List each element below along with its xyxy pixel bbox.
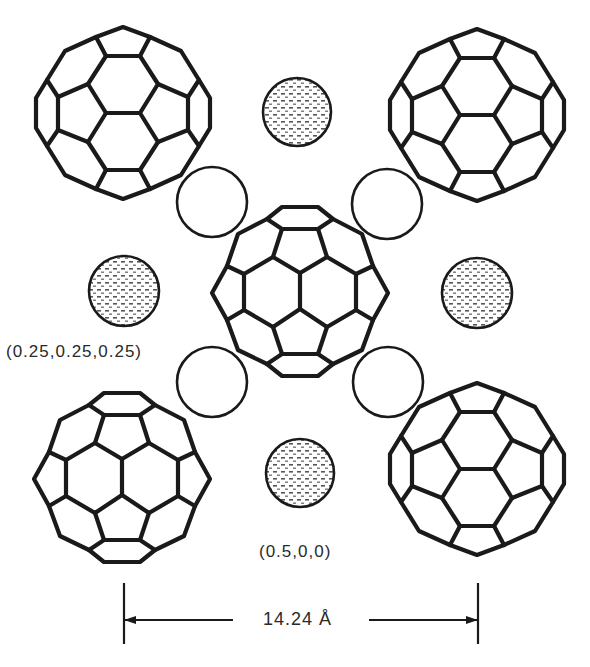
buckyball-top-left [36, 27, 210, 199]
tetrahedral-site-label: (0.25,0.25,0.25) [6, 342, 142, 362]
tetrahedral-site-ul [177, 167, 247, 237]
buckyball-top-right [390, 29, 564, 201]
tetrahedral-site-ur [352, 169, 422, 239]
tetrahedral-site-lr [353, 347, 423, 417]
buckyball-bottom-left [34, 393, 210, 562]
fullerene-crystal-diagram [0, 0, 590, 667]
buckyball-center [212, 207, 388, 376]
octahedral-site-top [263, 78, 331, 146]
buckyball-bottom-right [390, 383, 564, 555]
lattice-constant-label: 14.24 Å [263, 609, 332, 630]
octahedral-site-bottom [266, 439, 334, 507]
octahedral-site-label: (0.5,0,0) [259, 542, 331, 562]
tetrahedral-site-ll [177, 347, 247, 417]
octahedral-site-left [89, 256, 159, 326]
octahedral-site-right [442, 258, 512, 328]
